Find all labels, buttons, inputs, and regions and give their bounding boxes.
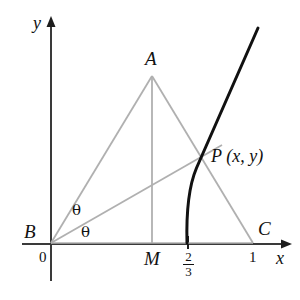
segment-BP [51,145,222,243]
point-label-C: C [258,219,271,238]
tick-label-one: 1 [249,250,257,265]
origin-label: 0 [39,250,47,265]
y-axis-arrowhead [47,16,56,27]
fraction-numerator: 2 [182,250,195,264]
geometry-figure: A B C M P (x, y) y x 0 2 3 1 θ θ [0,0,300,300]
x-axis-label: x [276,249,284,267]
point-label-B: B [24,222,36,241]
point-label-M: M [144,249,160,268]
tick-label-two-thirds: 2 3 [182,250,195,278]
segment-BA [51,76,152,243]
y-axis-label: y [33,14,41,32]
fraction-denominator: 3 [182,265,195,279]
angle-label-theta-lower: θ [81,225,90,240]
point-label-A: A [145,49,157,68]
point-label-P: P (x, y) [211,147,263,165]
angle-label-theta-upper: θ [72,203,81,218]
locus-curve [187,28,258,243]
